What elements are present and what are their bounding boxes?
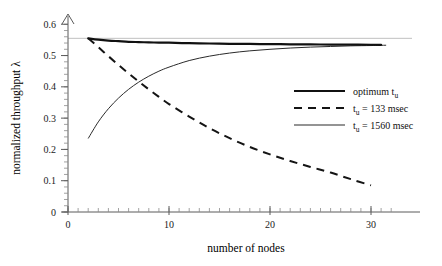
y-tick-label: 0.6 <box>44 19 57 30</box>
y-tick-label: 0.5 <box>44 50 57 61</box>
x-tick-label: 10 <box>164 219 174 230</box>
y-tick-label: 0.1 <box>44 175 57 186</box>
x-tick-label: 30 <box>366 219 376 230</box>
y-tick-label: 0.2 <box>44 144 57 155</box>
y-tick-label: 0.4 <box>44 81 57 92</box>
y-axis-title: normalized throughput λ <box>10 61 23 175</box>
x-tick-label: 20 <box>265 219 275 230</box>
y-tick-label: 0 <box>51 207 56 218</box>
x-tick-label: 0 <box>66 219 71 230</box>
y-tick-label: 0.3 <box>44 113 57 124</box>
chart-figure: 00.10.20.30.40.50.6 0102030 number of no… <box>0 0 442 266</box>
throughput-line-chart: 00.10.20.30.40.50.6 0102030 number of no… <box>0 0 442 266</box>
x-axis-title: number of nodes <box>207 242 285 254</box>
